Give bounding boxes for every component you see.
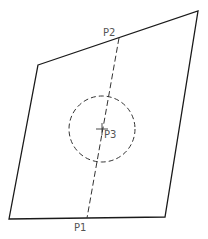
diagram-canvas: P2 P3 P1 bbox=[0, 0, 208, 239]
label-p2: P2 bbox=[103, 27, 115, 38]
label-p1: P1 bbox=[74, 222, 86, 233]
label-p3: P3 bbox=[104, 129, 116, 140]
quadrilateral-outline bbox=[9, 11, 198, 219]
dashed-line-p1-p2 bbox=[87, 38, 119, 218]
